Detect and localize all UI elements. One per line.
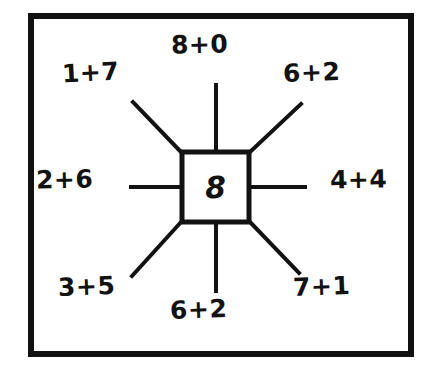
spoke-label-north-east: 6+2: [283, 57, 341, 88]
spoke-line-south-east: [249, 221, 299, 273]
spoke-label-south: 6+2: [170, 294, 228, 325]
spoke-line-south-west: [132, 221, 182, 276]
spoke-label-west: 2+6: [36, 165, 94, 195]
spoke-label-east: 4+4: [330, 165, 388, 195]
spoke-line-north-east: [249, 104, 301, 153]
spoke-label-north: 8+0: [171, 29, 229, 59]
spoke-label-south-east: 7+1: [293, 271, 351, 302]
spoke-label-south-west: 3+5: [58, 271, 116, 302]
spoke-label-north-west: 1+7: [61, 57, 120, 89]
worksheet-canvas: 8 8+0 1+7 6+2 2+6 4+4 3+5 6+2 7+1: [0, 0, 439, 376]
center-sum-value: 8: [181, 151, 250, 223]
spoke-line-north-west: [133, 102, 182, 153]
